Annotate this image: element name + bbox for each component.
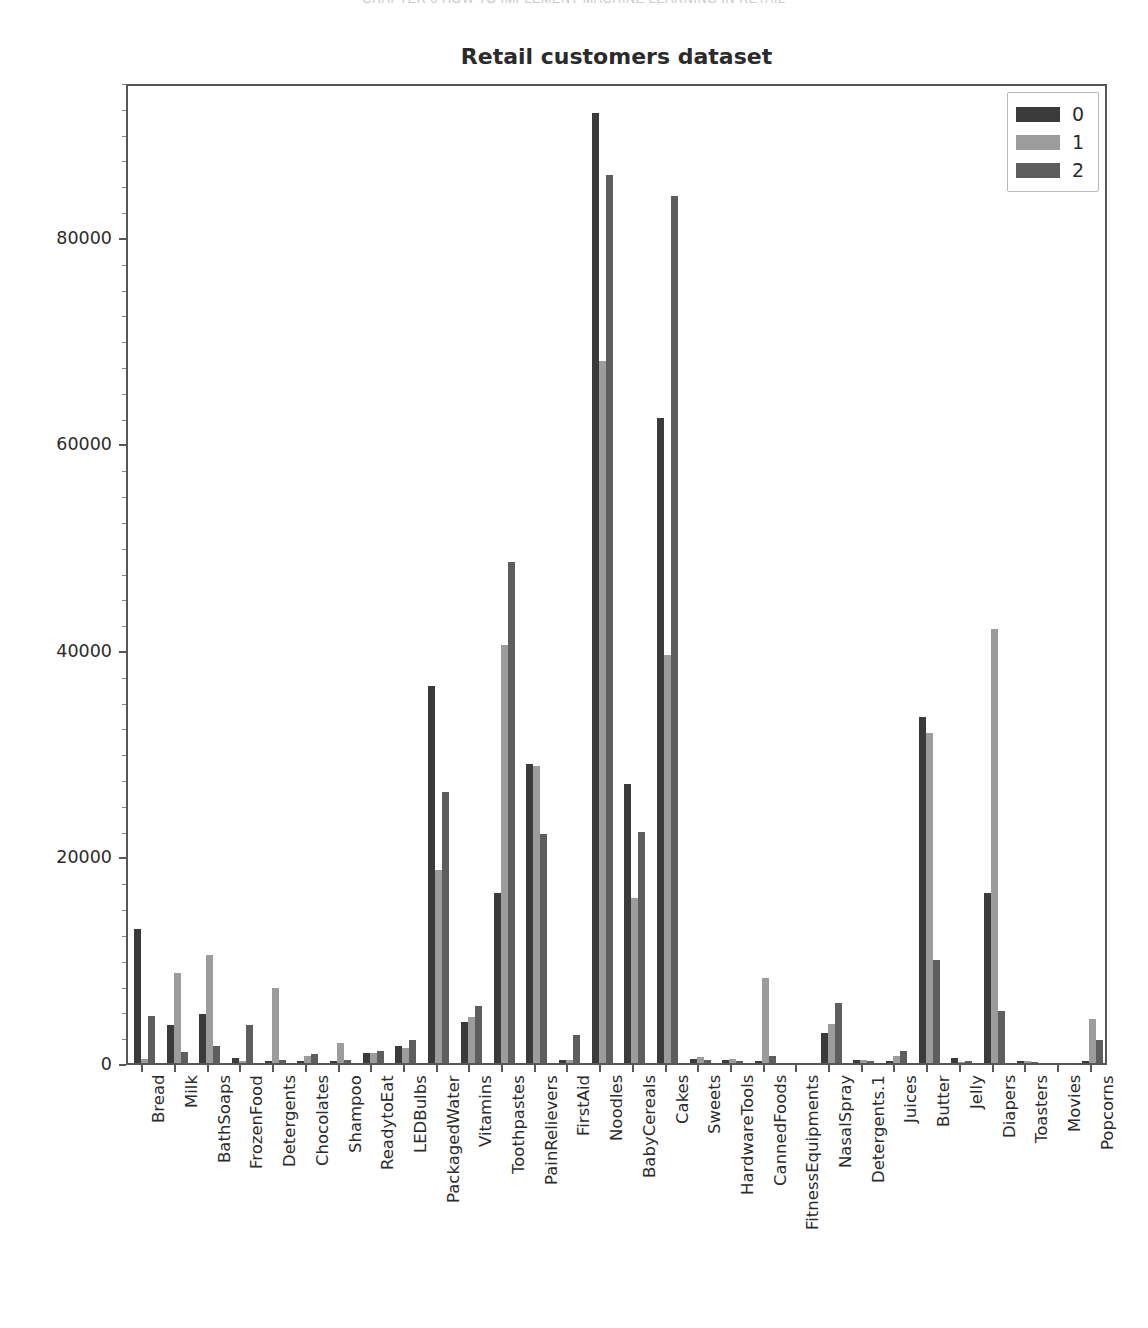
y-tick-mark	[119, 444, 126, 446]
x-tick-mark	[403, 1065, 405, 1072]
bar	[638, 832, 645, 1063]
x-tick-label: LEDBulbs	[411, 1075, 430, 1153]
bar	[494, 893, 501, 1063]
bar	[442, 792, 449, 1063]
bar	[279, 1060, 286, 1063]
bar	[566, 1060, 573, 1063]
x-tick-label: Milk	[182, 1075, 201, 1108]
bar	[134, 929, 141, 1063]
bar	[886, 1061, 893, 1063]
x-tick-label: NasalSpray	[836, 1075, 855, 1168]
y-tick-label: 20000	[0, 847, 112, 867]
legend-label: 0	[1072, 105, 1084, 124]
x-tick-label: BabyCereals	[640, 1075, 659, 1178]
bar	[232, 1058, 239, 1063]
x-tick-mark	[795, 1065, 797, 1072]
x-tick-mark	[141, 1065, 143, 1072]
x-tick-mark	[534, 1065, 536, 1072]
bar	[181, 1052, 188, 1063]
bar	[435, 870, 442, 1063]
x-tick-mark	[1057, 1065, 1059, 1072]
y-tick-label: 0	[0, 1054, 112, 1074]
x-tick-label: HardwareTools	[738, 1075, 757, 1195]
x-tick-mark	[174, 1065, 176, 1072]
bar	[697, 1057, 704, 1063]
x-tick-label: Cakes	[673, 1075, 692, 1124]
legend-item: 1	[1016, 128, 1090, 156]
x-tick-label: Bread	[149, 1075, 168, 1123]
bar	[206, 955, 213, 1063]
x-tick-label: FirstAid	[574, 1075, 593, 1136]
y-tick-mark	[119, 651, 126, 653]
bar	[867, 1061, 874, 1063]
x-tick-mark	[730, 1065, 732, 1072]
bar	[828, 1024, 835, 1063]
bar	[835, 1003, 842, 1063]
bar	[860, 1060, 867, 1063]
x-tick-mark	[207, 1065, 209, 1072]
x-tick-label: PainRelievers	[542, 1075, 561, 1185]
bar	[919, 717, 926, 1063]
bar	[1017, 1061, 1024, 1063]
x-tick-label: PackagedWater	[444, 1075, 463, 1203]
bar	[468, 1017, 475, 1063]
bar	[559, 1060, 566, 1063]
bar	[1082, 1061, 1089, 1063]
bar	[671, 196, 678, 1063]
bar	[631, 898, 638, 1063]
figure-page: CHAPTER 6 HOW TO IMPLEMENT MACHINE LEARN…	[0, 0, 1148, 1328]
bar	[991, 629, 998, 1063]
bar	[475, 1006, 482, 1063]
bar	[461, 1022, 468, 1063]
x-tick-mark	[992, 1065, 994, 1072]
x-tick-mark	[370, 1065, 372, 1072]
bar	[526, 764, 533, 1063]
bar	[304, 1056, 311, 1063]
legend-swatch	[1016, 107, 1060, 122]
bar	[330, 1061, 337, 1063]
x-tick-mark	[632, 1065, 634, 1072]
x-tick-label: Toothpastes	[509, 1075, 528, 1174]
bar	[265, 1061, 272, 1063]
bar	[900, 1051, 907, 1063]
x-tick-label: Detergents.1	[869, 1075, 888, 1183]
x-tick-mark	[697, 1065, 699, 1072]
bar	[363, 1053, 370, 1063]
y-tick-label: 60000	[0, 434, 112, 454]
bar	[965, 1061, 972, 1063]
x-tick-label: Shampoo	[346, 1075, 365, 1153]
legend-swatch	[1016, 135, 1060, 150]
bar	[402, 1048, 409, 1063]
x-tick-mark	[305, 1065, 307, 1072]
bar	[167, 1025, 174, 1063]
bar	[377, 1051, 384, 1063]
bar	[926, 733, 933, 1063]
bar	[246, 1025, 253, 1063]
x-tick-label: FrozenFood	[247, 1075, 266, 1169]
x-tick-label: Detergents	[280, 1075, 299, 1167]
x-tick-label: BathSoaps	[215, 1075, 234, 1163]
bar	[951, 1058, 958, 1063]
x-tick-mark	[501, 1065, 503, 1072]
legend-item: 2	[1016, 156, 1090, 184]
legend-label: 1	[1072, 133, 1084, 152]
x-tick-label: CannedFoods	[771, 1075, 790, 1186]
x-tick-label: Juices	[901, 1075, 920, 1123]
x-tick-label: Noodles	[607, 1075, 626, 1141]
x-tick-mark	[959, 1065, 961, 1072]
bar	[592, 113, 599, 1063]
x-tick-label: Popcorns	[1098, 1075, 1117, 1150]
bar	[1024, 1061, 1031, 1063]
x-tick-mark	[436, 1065, 438, 1072]
bar	[337, 1043, 344, 1063]
x-tick-label: Vitamins	[476, 1075, 495, 1147]
x-tick-mark	[1090, 1065, 1092, 1072]
bar	[599, 361, 606, 1063]
x-tick-mark	[828, 1065, 830, 1072]
bar	[428, 686, 435, 1063]
bar	[958, 1062, 965, 1063]
x-tick-mark	[926, 1065, 928, 1072]
bar	[1089, 1019, 1096, 1063]
bar	[821, 1033, 828, 1063]
x-tick-label: Chocolates	[313, 1075, 332, 1166]
